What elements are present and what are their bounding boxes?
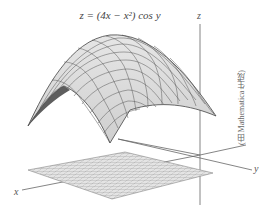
surface [28, 35, 216, 143]
figure-caption: (由 Mathematica 生成) [236, 70, 247, 145]
plot-title: z = (4x − x²) cos y [70, 9, 170, 21]
x-axis-label: x [14, 186, 18, 197]
z-axis-label: z [197, 10, 201, 21]
axes-front [118, 139, 200, 155]
x-axis-back [200, 145, 246, 155]
base-plane [28, 152, 213, 199]
y-axis-label: y [254, 163, 258, 174]
plot-canvas [0, 0, 268, 219]
surface-plot-figure: z = (4x − x²) cos y z x y (由 Mathematica… [0, 0, 268, 219]
